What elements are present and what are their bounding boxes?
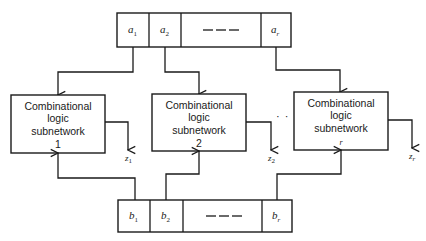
zr-output-arrow <box>388 120 412 148</box>
top-register: a1 a2 ar <box>117 13 291 47</box>
output-z1: z1 <box>124 153 133 165</box>
svg-text:subnetwork: subnetwork <box>314 122 368 134</box>
subnetwork-2: Combinational logic subnetwork 2 <box>152 94 246 151</box>
svg-text:logic: logic <box>188 111 210 123</box>
svg-text:logic: logic <box>330 109 352 121</box>
subnetwork-r: Combinational logic subnetwork r <box>294 92 388 150</box>
combinational-network-diagram: a1 a2 ar Combinational logic subnetwork … <box>0 0 426 241</box>
b1-to-subnetwork-1-arrow <box>58 153 135 200</box>
bottom-register: b1 b2 br <box>118 200 292 232</box>
subnetwork-1: Combinational logic subnetwork 1 <box>11 95 105 153</box>
output-zr: zr <box>408 151 416 163</box>
b2-to-subnetwork-2-arrow <box>166 151 199 200</box>
a1-to-subnetwork-1-arrow <box>58 47 133 95</box>
svg-text:Combinational: Combinational <box>24 100 91 112</box>
svg-text:subnetwork: subnetwork <box>172 124 226 136</box>
z2-output-arrow <box>246 122 271 150</box>
br-to-subnetwork-r-arrow <box>277 150 341 200</box>
ar-to-subnetwork-r-arrow <box>276 47 340 92</box>
svg-text:Combinational: Combinational <box>165 99 232 111</box>
z1-output-arrow <box>105 122 128 150</box>
svg-text:Combinational: Combinational <box>307 97 374 109</box>
svg-text:logic: logic <box>47 112 69 124</box>
svg-text:subnetwork: subnetwork <box>31 125 85 137</box>
output-z2: z2 <box>267 153 276 165</box>
a2-to-subnetwork-2-arrow <box>165 47 199 94</box>
svg-text:1: 1 <box>55 138 61 150</box>
svg-text:2: 2 <box>196 137 202 149</box>
